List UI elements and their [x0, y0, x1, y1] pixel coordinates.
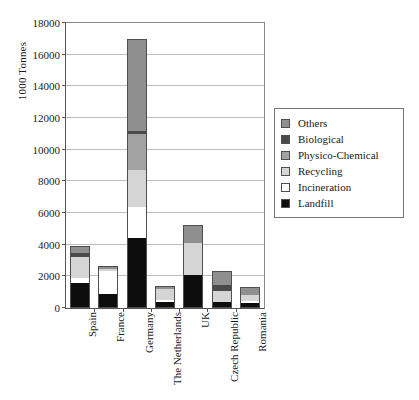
- legend-swatch: [281, 119, 290, 128]
- x-tick-label: Germany: [142, 312, 156, 353]
- gridline: [66, 244, 264, 245]
- stacked-bar: [240, 287, 260, 308]
- x-tick-label: UK: [198, 312, 212, 328]
- bar-segment: [155, 286, 175, 289]
- bar-segment: [127, 134, 147, 170]
- gridline: [66, 275, 264, 276]
- plot-area: 0200040006000800010000120001400016000180…: [65, 22, 265, 309]
- gridline: [66, 54, 264, 55]
- chart-figure: 1000 Tonnes 0200040006000800010000120001…: [0, 0, 419, 400]
- chart-legend: OthersBiologicalPhysico-ChemicalRecyclin…: [274, 108, 404, 218]
- x-tick-label: France: [113, 312, 127, 342]
- x-tick-label: Czech Republic: [227, 312, 241, 382]
- y-tick-label: 6000: [38, 213, 60, 214]
- legend-item: Landfill: [281, 195, 396, 211]
- stacked-bar: [98, 266, 118, 308]
- bar-segment: [212, 291, 232, 302]
- bar-segment: [183, 243, 203, 275]
- bar-segment: [127, 170, 147, 206]
- bar-segment: [155, 302, 175, 308]
- bar-segment: [70, 257, 90, 278]
- y-tick-mark: [62, 149, 66, 150]
- x-tick-label: Spain: [85, 312, 99, 337]
- legend-label: Landfill: [298, 198, 333, 209]
- y-tick-mark: [62, 54, 66, 55]
- y-tick-mark: [62, 85, 66, 86]
- y-tick-mark: [62, 117, 66, 118]
- legend-item: Others: [281, 115, 396, 131]
- y-tick-label: 0: [55, 308, 61, 309]
- y-tick-label: 10000: [33, 149, 61, 150]
- stacked-bar: [70, 246, 90, 308]
- stacked-bar: [183, 225, 203, 308]
- legend-label: Incineration: [298, 182, 351, 193]
- y-tick-mark: [62, 22, 66, 23]
- bar-segment: [155, 289, 175, 300]
- y-tick-mark: [62, 244, 66, 245]
- y-tick-mark: [62, 275, 66, 276]
- y-tick-label: 16000: [33, 54, 61, 55]
- bar-segment: [70, 283, 90, 308]
- y-tick-mark: [62, 307, 66, 308]
- legend-item: Recycling: [281, 163, 396, 179]
- bar-segment: [127, 39, 147, 131]
- bar-segment: [98, 266, 118, 269]
- gridline: [66, 212, 264, 213]
- y-tick-label: 4000: [38, 244, 60, 245]
- y-tick-label: 18000: [33, 23, 61, 24]
- bar-segment: [98, 271, 118, 294]
- gridline: [66, 149, 264, 150]
- legend-swatch: [281, 183, 290, 192]
- legend-label: Biological: [298, 134, 344, 145]
- bar-segment: [240, 301, 260, 303]
- legend-item: Physico-Chemical: [281, 147, 396, 163]
- y-tick-label: 12000: [33, 118, 61, 119]
- legend-item: Biological: [281, 131, 396, 147]
- legend-swatch: [281, 151, 290, 160]
- bar-segment: [183, 275, 203, 308]
- bar-segment: [240, 287, 260, 295]
- legend-label: Others: [298, 118, 327, 129]
- bar-segment: [70, 278, 90, 283]
- y-tick-label: 8000: [38, 181, 60, 182]
- bar-segment: [70, 253, 90, 257]
- bar-segment: [240, 295, 260, 301]
- legend-label: Recycling: [298, 166, 343, 177]
- gridline: [66, 180, 264, 181]
- y-tick-mark: [62, 180, 66, 181]
- y-tick-mark: [62, 212, 66, 213]
- stacked-bar: [212, 271, 232, 308]
- x-tick-label: The Netherlands: [170, 312, 184, 385]
- stacked-bar: [155, 286, 175, 308]
- legend-swatch: [281, 167, 290, 176]
- legend-swatch: [281, 199, 290, 208]
- bar-segment: [212, 285, 232, 291]
- bar-segment: [98, 269, 118, 271]
- x-tick-label: Romania: [255, 312, 269, 352]
- bar-segment: [127, 207, 147, 239]
- bar-segment: [155, 300, 175, 302]
- y-tick-label: 14000: [33, 86, 61, 87]
- gridline: [66, 117, 264, 118]
- bar-segment: [98, 294, 118, 308]
- legend-swatch: [281, 135, 290, 144]
- legend-label: Physico-Chemical: [298, 150, 379, 161]
- gridline: [66, 85, 264, 86]
- y-tick-label: 2000: [38, 276, 60, 277]
- bar-segment: [127, 238, 147, 308]
- stacked-bar: [127, 39, 147, 308]
- bar-segment: [240, 303, 260, 308]
- y-axis-title: 1000 Tonnes: [14, 6, 30, 136]
- bar-segment: [183, 225, 203, 243]
- bar-segment: [70, 246, 90, 252]
- bar-segment: [212, 271, 232, 285]
- bar-segment: [127, 131, 147, 134]
- legend-item: Incineration: [281, 179, 396, 195]
- bar-segment: [212, 302, 232, 308]
